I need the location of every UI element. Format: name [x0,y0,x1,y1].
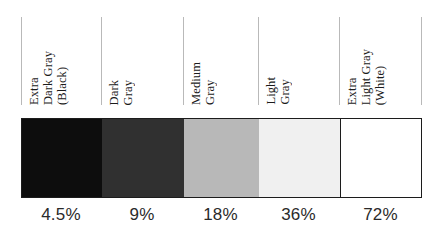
percent-label-medium-gray: 18% [183,200,258,230]
percent-label-extra-dark-gray: 4.5% [21,200,101,230]
swatch-dark-gray [102,119,184,197]
percent-label-light-gray: 36% [258,200,339,230]
column-label-cell-4: Extra Light Gray (White) [339,17,421,105]
swatch-strip [21,118,422,198]
swatch-extra-light-gray [340,119,420,197]
percent-row: 4.5% 9% 18% 36% 72% [21,200,422,230]
column-label-cell-2: Medium Gray [183,17,258,105]
column-label-cell-3: Light Gray [258,17,339,105]
column-label-medium-gray: Medium Gray [189,62,217,105]
column-label-dark-gray: Dark Gray [107,80,135,105]
column-label-cell-0: Extra Dark Gray (Black) [21,17,101,105]
label-band: Extra Dark Gray (Black) Dark Gray Medium… [21,17,422,105]
column-label-light-gray: Light Gray [264,77,292,105]
swatch-extra-dark-gray [22,119,102,197]
column-label-extra-dark-gray: Extra Dark Gray (Black) [27,51,69,105]
swatch-light-gray [259,119,340,197]
column-divider-5 [421,17,422,105]
grayscale-value-scale-figure: Extra Dark Gray (Black) Dark Gray Medium… [0,0,442,239]
percent-label-dark-gray: 9% [101,200,183,230]
column-label-extra-light-gray: Extra Light Gray (White) [345,49,387,105]
column-label-cell-1: Dark Gray [101,17,183,105]
percent-label-extra-light-gray: 72% [339,200,422,230]
swatch-medium-gray [184,119,259,197]
